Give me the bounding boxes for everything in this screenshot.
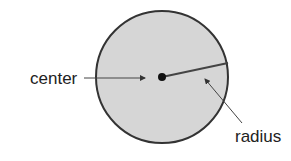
center-dot (158, 73, 166, 81)
circle-diagram: center radius (0, 0, 291, 161)
center-label: center (30, 69, 78, 88)
radius-label: radius (235, 127, 281, 146)
